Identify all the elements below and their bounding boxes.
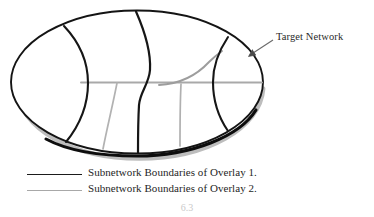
figure-container: Target Network Subnetwork Boundaries of … — [0, 0, 374, 217]
legend-label-overlay1: Subnetwork Boundaries of Overlay 1. — [88, 166, 257, 178]
legend-swatch-overlay2-line — [27, 190, 82, 191]
legend: Subnetwork Boundaries of Overlay 1. Subn… — [0, 166, 374, 198]
legend-row-overlay2: Subnetwork Boundaries of Overlay 2. — [0, 182, 374, 198]
legend-swatch-overlay1-line — [27, 174, 82, 175]
legend-row-overlay1: Subnetwork Boundaries of Overlay 1. — [0, 166, 374, 182]
legend-label-overlay2: Subnetwork Boundaries of Overlay 2. — [88, 182, 257, 194]
target-network-label: Target Network — [276, 31, 343, 42]
target-network-leader-arrow — [249, 40, 274, 57]
figure-caption-partial: 6.3 — [0, 202, 374, 213]
